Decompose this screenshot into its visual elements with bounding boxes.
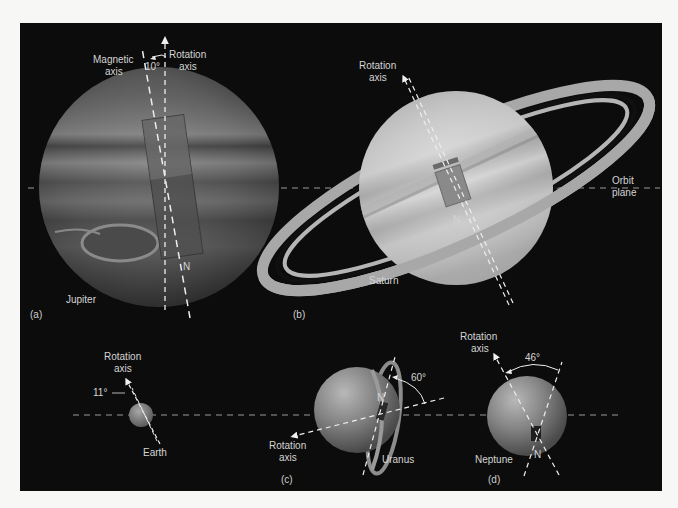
rotation-axis-label-line1: Rotation [359,60,396,71]
panel-c-letter: (c) [281,474,293,485]
rotation-axis-label-line2: axis [369,72,387,83]
uranus-rotation-label-line2: axis [279,452,297,463]
uranus-label: Uranus [382,454,414,465]
magnetic-axis-label-line2: axis [105,66,123,77]
saturn-north-pole-label: N [453,214,460,225]
neptune-tilt-angle: 46° [525,352,540,363]
panel-b-letter: (b) [293,309,305,320]
great-red-spot [82,225,158,261]
uranus-north-pole-label: N [377,392,384,403]
earth-tilt-angle: 11° [93,387,107,398]
orbit-plane-label-line1: Orbit [612,175,634,186]
neptune-north-pole-label: N [534,449,541,460]
earth-rotation-label-line2: axis [114,363,132,374]
jupiter-label: Jupiter [66,294,97,305]
rotation-axis-label-line2: axis [179,61,197,72]
uranus-rotation-label-line1: Rotation [269,440,306,451]
planet-magnetic-field-diagram: 10° Magnetic axis Rotation axis N Jupite… [0,0,678,508]
uranus-planet [314,367,400,453]
neptune-label: Neptune [475,454,513,465]
jupiter-north-pole-label: N [183,261,190,272]
uranus-tilt-angle: 60° [411,372,426,383]
rotation-axis-label-line1: Rotation [169,49,206,60]
orbit-plane-label-line2: plane [612,187,637,198]
magnetic-axis-label-line1: Magnetic [93,54,134,65]
rotation-axis-label-line1: Rotation [460,331,497,342]
panel-a-letter: (a) [30,309,42,320]
panel-d-letter: (d) [488,474,500,485]
rotation-axis-label-line2: axis [471,343,489,354]
jupiter-tilt-angle: 10° [145,61,160,72]
saturn-label: Saturn [369,275,398,286]
earth-label: Earth [143,447,167,458]
figure: 10° Magnetic axis Rotation axis N Jupite… [0,0,678,508]
earth-rotation-label-line1: Rotation [104,351,141,362]
